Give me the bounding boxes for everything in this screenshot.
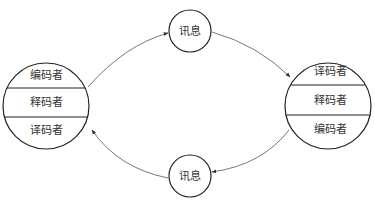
left-section-interpreter: 释码者 [30, 96, 63, 109]
right-participant-node: 译码者 释码者 编码者 [280, 63, 375, 149]
right-section-decoder: 译码者 [314, 65, 347, 78]
left-section-decoder: 译码者 [30, 124, 63, 137]
edge-bottom-message-to-left [92, 130, 168, 178]
top-message-label: 讯息 [179, 24, 201, 38]
left-participant-node: 编码者 释码者 译码者 [0, 63, 100, 149]
top-message-node: 讯息 [169, 10, 211, 52]
bottom-message-node: 讯息 [169, 155, 211, 197]
edge-top-message-to-right [212, 32, 290, 77]
edge-left-to-top-message [88, 33, 168, 87]
right-section-encoder: 编码者 [314, 122, 347, 136]
communication-diagram: 编码者 释码者 译码者 译码者 释码者 编码者 讯息 讯息 [0, 0, 375, 203]
edge-right-to-bottom-message [212, 130, 289, 172]
bottom-message-label: 讯息 [179, 169, 201, 183]
right-section-interpreter: 释码者 [314, 94, 347, 107]
left-section-encoder: 编码者 [30, 68, 63, 82]
